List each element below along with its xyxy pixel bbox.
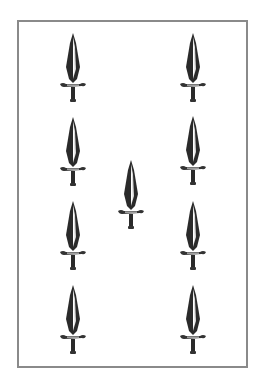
sword-icon bbox=[58, 33, 88, 103]
sword-icon bbox=[116, 160, 146, 230]
sword-icon bbox=[178, 33, 208, 103]
sword-icon bbox=[58, 117, 88, 187]
sword-icon bbox=[178, 285, 208, 355]
sword-icon bbox=[58, 201, 88, 271]
sword-icon bbox=[178, 201, 208, 271]
sword-icon bbox=[58, 285, 88, 355]
sword-icon bbox=[178, 116, 208, 186]
